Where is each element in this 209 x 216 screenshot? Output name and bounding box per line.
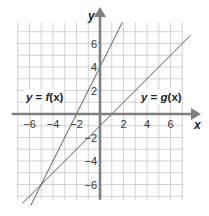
y-tick-label: 2 [91, 85, 97, 97]
y-tick-label: 4 [91, 61, 97, 73]
y-tick-label: −4 [84, 155, 97, 167]
y-tick-label: 6 [91, 38, 97, 50]
y-axis-arrow-icon [94, 7, 106, 17]
x-axis-label: x [193, 118, 202, 132]
x-tick-label: −2 [70, 118, 83, 130]
f-label: y = f(x) [25, 91, 64, 103]
x-tick-label: 6 [167, 118, 173, 130]
coordinate-plane: −6−4−2246642−2−4−6 y = f(x) y = g(x) y x [0, 0, 209, 216]
y-tick-label: −6 [84, 179, 97, 191]
g-label: y = g(x) [140, 91, 182, 103]
x-tick-label: −4 [47, 118, 60, 130]
x-tick-label: 4 [144, 118, 150, 130]
x-tick-label: −6 [23, 118, 36, 130]
x-tick-label: 2 [120, 118, 126, 130]
y-tick-label: −2 [84, 132, 97, 144]
function-labels: y = f(x) y = g(x) [24, 89, 182, 104]
y-axis-label: y [87, 9, 96, 23]
